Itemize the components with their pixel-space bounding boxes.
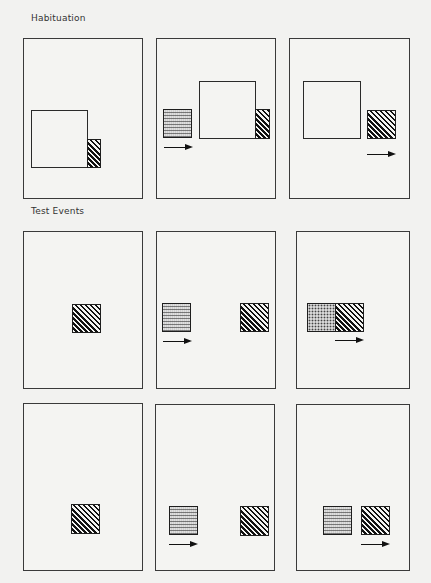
habituation-panel-1 <box>23 38 143 199</box>
striped-box <box>87 139 101 168</box>
wavy-box <box>163 109 192 138</box>
test-panel-2-1 <box>23 403 143 571</box>
striped-box <box>255 109 270 139</box>
habituation-label: Habituation <box>31 13 86 23</box>
test-events-label: Test Events <box>31 206 84 216</box>
test-panel-2-3 <box>296 404 410 571</box>
striped-box <box>361 506 390 535</box>
wavy-box <box>162 303 191 332</box>
striped-box <box>240 506 269 536</box>
wavy-box <box>169 506 198 535</box>
motion-arrow-icon <box>335 337 364 344</box>
occluder-screen <box>31 110 88 168</box>
striped-box <box>71 504 100 534</box>
motion-arrow-icon <box>164 144 193 151</box>
striped-box <box>240 303 269 332</box>
motion-arrow-icon <box>169 541 198 548</box>
occluder-screen <box>303 81 361 139</box>
habituation-panel-2 <box>156 38 276 199</box>
striped-box <box>335 303 364 332</box>
striped-box <box>367 110 396 139</box>
test-panel-1-2 <box>156 231 276 389</box>
motion-arrow-icon <box>367 151 396 158</box>
habituation-panel-3 <box>289 38 410 199</box>
dotted-box <box>307 303 336 332</box>
motion-arrow-icon <box>163 338 192 345</box>
test-panel-1-1 <box>23 231 143 389</box>
wavy-box <box>323 506 352 535</box>
striped-box <box>72 304 101 333</box>
occluder-screen <box>199 81 256 139</box>
test-panel-2-2 <box>155 404 275 571</box>
motion-arrow-icon <box>361 541 390 548</box>
test-panel-1-3 <box>296 231 410 389</box>
